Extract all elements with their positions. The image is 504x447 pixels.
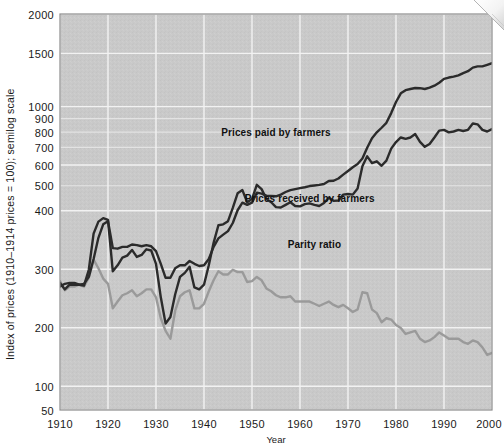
y-tick-label: 50 [41, 405, 54, 417]
y-tick-label: 800 [35, 127, 54, 139]
y-tick-label: 200 [35, 322, 54, 334]
x-tick-label: 1930 [143, 418, 169, 430]
y-tick-label: 2000 [28, 9, 54, 21]
x-tick-label: 1980 [383, 418, 409, 430]
x-tick-label: 1920 [95, 418, 121, 430]
annotation-parity-ratio: Parity ratio [288, 239, 341, 250]
x-axis-title: Year [266, 434, 285, 445]
y-axis-ticks: 2000 1500 1000 900 800 700 600 500 400 3… [28, 9, 54, 417]
y-tick-label: 300 [35, 264, 54, 276]
x-tick-label: 1960 [287, 418, 313, 430]
y-tick-label: 600 [35, 160, 54, 172]
x-tick-label: 1910 [47, 418, 73, 430]
y-tick-label: 900 [35, 113, 54, 125]
price-index-chart: Prices paid by farmers Prices received b… [0, 0, 504, 447]
x-tick-label: 2000 [476, 418, 502, 430]
x-tick-label: 1940 [191, 418, 217, 430]
y-tick-label: 500 [35, 180, 54, 192]
plot-area-background [60, 14, 492, 410]
y-axis-title: Index of prices (1910–1914 prices = 100)… [4, 88, 16, 360]
y-tick-label: 400 [35, 205, 54, 217]
annotation-prices-paid-by-farmers: Prices paid by farmers [221, 127, 331, 138]
y-tick-label: 700 [35, 142, 54, 154]
annotation-prices-received-by-farmers: Prices received by farmers [245, 193, 375, 204]
y-tick-label: 1500 [28, 48, 54, 60]
chart-figure: Prices paid by farmers Prices received b… [0, 0, 504, 447]
x-axis-ticks: 1910 1920 1930 1940 1950 1960 1970 1980 … [47, 418, 502, 430]
y-tick-label: 1000 [28, 101, 54, 113]
x-tick-label: 1970 [335, 418, 361, 430]
x-tick-label: 1990 [431, 418, 457, 430]
x-tick-label: 1950 [239, 418, 265, 430]
y-tick-label: 100 [35, 381, 54, 393]
